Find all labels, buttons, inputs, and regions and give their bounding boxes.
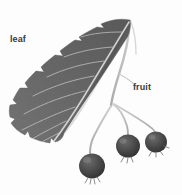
annotation-label-leaf: leaf (10, 35, 26, 44)
fruit-right-highlight (149, 135, 155, 140)
fruit-left-body (79, 154, 105, 179)
fruit-left-highlight (83, 157, 91, 163)
fruit-right-body (145, 132, 167, 153)
annotation-label-fruit: fruit (133, 83, 151, 92)
fruit-middle-body (116, 135, 140, 158)
figure-illustration (0, 0, 182, 195)
fruit-middle-highlight (119, 138, 126, 144)
botanical-figure: leaf fruit (0, 0, 182, 195)
